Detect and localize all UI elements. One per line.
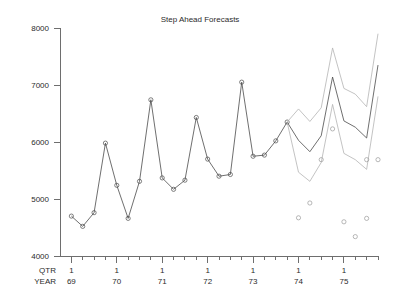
data-point-marker [296, 216, 300, 220]
x-quarter-label: 1 [160, 266, 165, 275]
step-ahead-forecasts-chart: Step Ahead Forecasts 4000500060007000800… [0, 0, 400, 300]
qtr-row-label: QTR [39, 266, 56, 275]
x-year-label: 73 [249, 277, 258, 286]
x-axis: 169170171172173174175 [67, 256, 378, 286]
x-quarter-label: 1 [342, 266, 347, 275]
x-quarter-label: 1 [115, 266, 120, 275]
x-quarter-label: 1 [296, 266, 301, 275]
x-year-label: 69 [67, 277, 76, 286]
y-tick-label: 6000 [31, 138, 49, 147]
y-tick-label: 4000 [31, 252, 49, 261]
data-point-marker [342, 220, 346, 224]
chart-title: Step Ahead Forecasts [161, 15, 240, 24]
data-point-marker [376, 158, 380, 162]
x-year-label: 74 [294, 277, 303, 286]
series-line-forecast [287, 65, 378, 152]
data-point-marker [308, 201, 312, 205]
series-line-lower-band [287, 96, 378, 181]
chart-container: Step Ahead Forecasts 4000500060007000800… [0, 0, 400, 300]
x-quarter-label: 1 [69, 266, 74, 275]
y-tick-label: 8000 [31, 24, 49, 33]
x-year-label: 70 [112, 277, 121, 286]
data-series-group [69, 34, 380, 239]
series-line-observed [71, 82, 287, 226]
x-year-label: 71 [158, 277, 167, 286]
x-quarter-label: 1 [251, 266, 256, 275]
y-axis: 40005000600070008000 [31, 24, 60, 261]
y-tick-label: 5000 [31, 195, 49, 204]
data-point-marker [353, 235, 357, 239]
data-point-marker [365, 216, 369, 220]
data-point-marker [330, 127, 334, 131]
x-quarter-label: 1 [205, 266, 210, 275]
y-tick-label: 7000 [31, 81, 49, 90]
x-year-label: 75 [339, 277, 348, 286]
axis-frame [60, 28, 378, 256]
year-row-label: YEAR [34, 277, 56, 286]
x-year-label: 72 [203, 277, 212, 286]
